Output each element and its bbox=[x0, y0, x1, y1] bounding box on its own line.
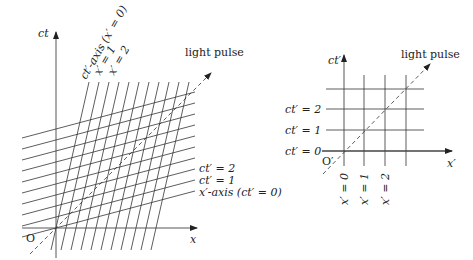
right-diagram: ct′ x′ O′ light pulse ct′ = 2 ct′ = 1 ct… bbox=[285, 48, 460, 205]
row-label-ct1: ct′ = 1 bbox=[285, 124, 321, 137]
light-pulse-label-right: light pulse bbox=[401, 48, 460, 61]
col-label-x1: x′ = 1 bbox=[358, 173, 371, 205]
row-label-ct2: ct′ = 2 bbox=[285, 103, 321, 116]
origin-label: O bbox=[26, 232, 35, 245]
row-label-ct0: ct′ = 0 bbox=[285, 145, 321, 158]
spacetime-diagrams: ct x O light pulse ct′-axis (x′ = 0) x′ … bbox=[0, 0, 473, 260]
x-prime-grid-lines bbox=[51, 82, 189, 250]
light-pulse-line bbox=[30, 73, 211, 254]
x-prime-axis-label: x′ bbox=[447, 157, 456, 170]
x-prime-axis-label: x′-axis (ct′ = 0) bbox=[199, 186, 282, 199]
left-diagram: ct x O light pulse ct′-axis (x′ = 0) x′ … bbox=[22, 3, 282, 258]
ct-axis-label: ct bbox=[38, 27, 49, 40]
x-axis-label: x bbox=[190, 233, 197, 246]
col-label-x0: x′ = 0 bbox=[338, 173, 351, 205]
light-pulse-line-right bbox=[323, 64, 430, 174]
col-label-x2: x′ = 2 bbox=[379, 173, 392, 205]
origin-prime-label: O′ bbox=[322, 155, 334, 168]
light-pulse-label: light pulse bbox=[185, 46, 244, 59]
ct-prime-axis-label: ct′ bbox=[328, 54, 342, 67]
